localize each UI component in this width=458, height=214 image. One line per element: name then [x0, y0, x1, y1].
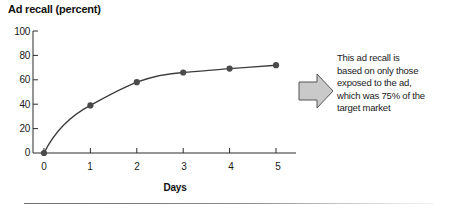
ad-recall-figure: Ad recall (percent) 100 80 60 40 20 0 0 … — [0, 0, 458, 214]
note-line-3: exposed to the ad, — [337, 77, 455, 90]
x-axis-ticks — [44, 148, 276, 153]
note-line-1: This ad recall is — [337, 52, 455, 65]
data-line-ad-recall — [44, 65, 276, 153]
note-line-4: which was 75% of the — [337, 90, 455, 103]
data-point-day-0 — [41, 150, 47, 156]
data-point-day-3 — [180, 69, 186, 75]
data-point-day-1 — [87, 102, 93, 108]
ad-recall-note: This ad recall is based on only those ex… — [337, 52, 455, 115]
data-point-day-2 — [134, 79, 140, 85]
callout-right-arrow-icon — [299, 74, 333, 108]
note-line-2: based on only those — [337, 65, 455, 78]
data-point-day-4 — [227, 66, 233, 72]
note-line-5: target market — [337, 102, 455, 115]
data-point-day-5 — [273, 62, 279, 68]
bottom-divider — [24, 203, 434, 204]
y-axis-ticks — [33, 31, 38, 129]
